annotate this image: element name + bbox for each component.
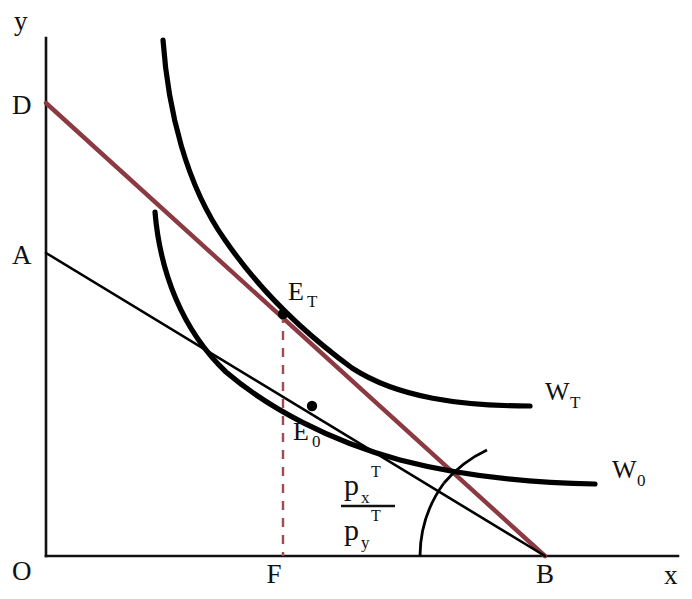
label-curve-WT-base: W: [545, 377, 570, 406]
indifference-curve-W0: [155, 212, 595, 484]
label-A: A: [12, 240, 32, 270]
diagram-figure: y x O D A F B E T E 0 W T W 0 p x T p y …: [0, 0, 692, 599]
label-point-E0-subscript: 0: [312, 432, 321, 451]
label-curve-WT: W T: [545, 377, 581, 412]
price-ratio-denominator-superscript: T: [371, 507, 381, 524]
label-curve-WT-subscript: T: [570, 393, 581, 412]
label-point-ET: E T: [288, 277, 318, 311]
point-dot-E0: [307, 401, 317, 411]
indifference-curve-WT: [163, 40, 530, 406]
label-point-E0: E 0: [293, 417, 321, 451]
price-ratio-numerator-superscript: T: [371, 463, 381, 480]
budget-line-red-DB: [46, 103, 545, 556]
label-F: F: [266, 559, 281, 589]
label-curve-W0-base: W: [612, 455, 637, 484]
origin-label: O: [12, 556, 32, 586]
label-point-E0-base: E: [293, 417, 309, 446]
label-curve-W0: W 0: [612, 455, 646, 490]
point-dot-ET: [278, 309, 288, 319]
price-ratio-denominator-subscript: y: [361, 533, 370, 552]
y-axis-label: y: [14, 6, 28, 36]
indifference-curve-diagram: y x O D A F B E T E 0 W T W 0 p x T p y …: [0, 0, 692, 599]
price-ratio-numerator-subscript: x: [361, 488, 370, 507]
axes-group: [46, 38, 678, 556]
label-point-ET-base: E: [288, 277, 304, 306]
price-ratio-denominator-base: p: [344, 513, 359, 546]
label-point-ET-subscript: T: [307, 292, 318, 311]
price-ratio-numerator-base: p: [344, 468, 359, 501]
x-axis-label: x: [664, 560, 678, 590]
label-D: D: [12, 90, 32, 120]
label-curve-W0-subscript: 0: [637, 471, 646, 490]
price-ratio-annotation: p x T p y T: [341, 463, 395, 552]
label-B: B: [536, 559, 554, 589]
